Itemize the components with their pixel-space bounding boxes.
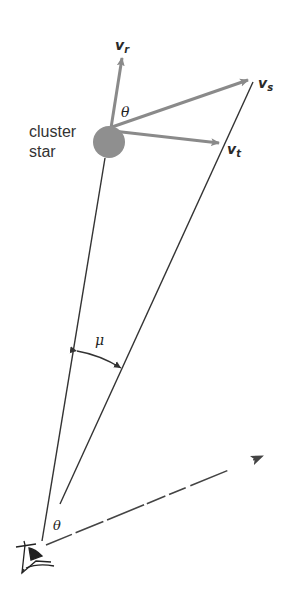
radial-velocity-label: vr bbox=[115, 37, 130, 55]
line-of-sight-displaced bbox=[60, 82, 253, 504]
tangential-velocity-arrow bbox=[113, 131, 219, 143]
cluster-star bbox=[93, 126, 125, 158]
line-of-sight-star bbox=[42, 158, 105, 541]
space-velocity-label: vs bbox=[258, 75, 273, 93]
tangential-velocity-label: vt bbox=[227, 141, 242, 159]
observer-direction-arrow bbox=[46, 456, 263, 545]
star-label-line1: cluster bbox=[29, 123, 77, 140]
velocity-diagram: cluster star vr vs vt θ μ θ bbox=[0, 0, 294, 610]
space-velocity-arrow bbox=[112, 80, 248, 127]
theta-label-observer: θ bbox=[53, 518, 61, 533]
theta-label-star: θ bbox=[121, 104, 130, 120]
eye-icon bbox=[16, 541, 54, 573]
proper-motion-arc bbox=[77, 351, 121, 368]
mu-label: μ bbox=[95, 332, 104, 348]
star-label-line2: star bbox=[29, 143, 56, 160]
